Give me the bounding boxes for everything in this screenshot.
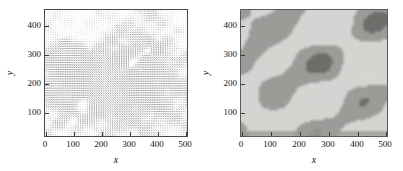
x-tick-500	[386, 132, 387, 136]
x-axis-title: x	[312, 155, 316, 165]
y-tick-400	[241, 26, 245, 27]
y-tick-200	[241, 84, 245, 85]
x-tick-300	[329, 132, 330, 136]
y-tick-400	[45, 26, 49, 27]
quiver-canvas	[45, 10, 187, 136]
x-tick-200	[300, 132, 301, 136]
x-ticklabel-400: 400	[150, 140, 164, 149]
y-tick-100	[241, 113, 245, 114]
contour-field	[241, 10, 387, 136]
x-ticklabel-200: 200	[292, 140, 306, 149]
x-tick-0	[46, 132, 47, 136]
y-axis-title: y	[201, 71, 211, 75]
x-ticklabel-300: 300	[122, 140, 136, 149]
vector-field-panel: 400 300 200 100 0 100 200 300 400 500 x …	[0, 0, 201, 171]
contour-canvas	[241, 10, 387, 136]
y-tick-200	[45, 84, 49, 85]
y-tick-300	[241, 55, 245, 56]
x-tick-400	[358, 132, 359, 136]
x-ticklabel-200: 200	[94, 140, 108, 149]
y-tick-300	[45, 55, 49, 56]
x-ticklabel-400: 400	[350, 140, 364, 149]
vector-field-plot-frame	[44, 9, 188, 137]
x-tick-200	[102, 132, 103, 136]
y-ticklabel-200: 200	[19, 79, 41, 88]
x-tick-100	[74, 132, 75, 136]
contour-map-plot-frame	[240, 9, 388, 137]
y-ticklabel-300: 300	[215, 50, 237, 59]
x-axis-title: x	[114, 155, 118, 165]
x-ticklabel-500: 500	[178, 140, 192, 149]
x-ticklabel-0: 0	[239, 140, 244, 149]
x-ticklabel-300: 300	[321, 140, 335, 149]
y-ticklabel-200: 200	[215, 79, 237, 88]
x-tick-400	[158, 132, 159, 136]
quiver-field	[45, 10, 187, 136]
x-ticklabel-0: 0	[43, 140, 48, 149]
y-ticklabel-100: 100	[215, 108, 237, 117]
y-axis-title: y	[5, 71, 15, 75]
x-tick-500	[186, 132, 187, 136]
x-ticklabel-100: 100	[263, 140, 277, 149]
x-tick-100	[271, 132, 272, 136]
y-ticklabel-400: 400	[215, 21, 237, 30]
y-ticklabel-100: 100	[19, 108, 41, 117]
y-ticklabel-300: 300	[19, 50, 41, 59]
x-tick-0	[242, 132, 243, 136]
contour-map-panel: 400 300 200 100 0 100 200 300 400 500 x …	[200, 0, 401, 171]
y-tick-100	[45, 113, 49, 114]
x-ticklabel-100: 100	[66, 140, 80, 149]
x-tick-300	[130, 132, 131, 136]
y-ticklabel-400: 400	[19, 21, 41, 30]
x-ticklabel-500: 500	[378, 140, 392, 149]
two-panel-figure: 400 300 200 100 0 100 200 300 400 500 x …	[0, 0, 403, 171]
